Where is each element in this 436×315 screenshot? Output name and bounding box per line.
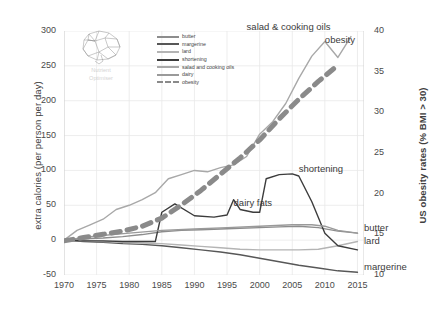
legend-item: margerine — [157, 41, 234, 49]
legend-item: dairy — [157, 71, 234, 79]
annotation-margerine: margerine — [364, 261, 407, 272]
y-axis-right-tick: 20 — [374, 188, 408, 198]
y-axis-left-title: extra calories (per person per day) — [32, 56, 43, 256]
legend-label: margerine — [182, 42, 206, 47]
legend-swatch — [157, 51, 179, 53]
legend-label: dairy — [182, 72, 193, 77]
y-axis-left-tick: 150 — [22, 130, 56, 140]
y-axis-left-tick: 200 — [22, 95, 56, 105]
annotation-butter: butter — [364, 222, 388, 233]
y-axis-left-tick: 100 — [22, 164, 56, 174]
series-line-margerine — [64, 240, 357, 272]
y-axis-right-tick: 35 — [374, 66, 408, 76]
y-axis-right-tick: 40 — [374, 25, 408, 35]
legend-swatch — [157, 59, 179, 61]
watermark-line-1: Nutrient — [66, 67, 136, 74]
legend-swatch — [157, 81, 179, 83]
legend-swatch — [157, 74, 179, 76]
brain-icon — [75, 28, 127, 66]
annotation-obesity: obesity — [325, 34, 355, 45]
chart-legend: buttermargerinelardshorteningsalad and c… — [157, 33, 234, 86]
legend-swatch — [157, 66, 179, 68]
legend-item: lard — [157, 48, 234, 56]
y-axis-right-title: US obesity rates (% BMI > 30) — [417, 56, 428, 256]
y-axis-right-tick: 25 — [374, 147, 408, 157]
legend-label: salad and cooking oils — [182, 65, 234, 70]
legend-label: lard — [182, 49, 191, 54]
watermark-logo: Nutrient Optimiser — [66, 28, 136, 82]
chart-container: extra calories (per person per day) US o… — [0, 0, 436, 315]
y-axis-left-tick: -50 — [22, 269, 56, 279]
legend-label: shortening — [182, 57, 207, 62]
legend-item: butter — [157, 33, 234, 41]
annotation-shortening: shortening — [299, 163, 343, 174]
y-axis-right-tick: 30 — [374, 106, 408, 116]
series-line-obesity — [64, 65, 338, 241]
annotation-lard: lard — [364, 235, 380, 246]
legend-swatch — [157, 36, 179, 38]
legend-label: obesity — [182, 80, 199, 85]
legend-item: salad and cooking oils — [157, 63, 234, 71]
y-axis-left-tick: 0 — [22, 234, 56, 244]
annotation-dairy-fats: dairy fats — [234, 197, 273, 208]
y-axis-left-tick: 250 — [22, 60, 56, 70]
annotation-salad-cooking-oils: salad & cooking oils — [247, 21, 331, 32]
y-axis-left-tick: 300 — [22, 25, 56, 35]
watermark-line-2: Optimiser — [66, 75, 136, 82]
legend-swatch — [157, 43, 179, 45]
legend-item: shortening — [157, 56, 234, 64]
x-axis-tick: 2015 — [337, 280, 377, 290]
y-axis-left-tick: 50 — [22, 199, 56, 209]
legend-item: obesity — [157, 79, 234, 87]
legend-label: butter — [182, 34, 196, 39]
